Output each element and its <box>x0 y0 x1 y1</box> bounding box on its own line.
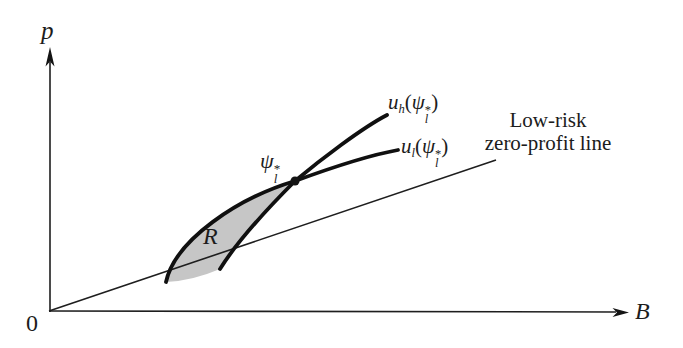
tangency-point-dot <box>291 177 300 186</box>
psi-label-scripts: *l <box>274 164 281 183</box>
uh-label-open-paren: ( <box>405 90 412 114</box>
x-axis <box>49 311 616 312</box>
ul-label-psi-scripts: *l <box>435 150 441 168</box>
zero-profit-line <box>49 160 496 311</box>
uh-curve-label: uh(ψ*l) <box>388 90 438 123</box>
shaded-region-R <box>166 181 295 282</box>
zero-profit-line-label: Low-risk zero-profit line <box>462 109 634 155</box>
origin-label: 0 <box>26 310 38 337</box>
uh-label-psi: ψ <box>412 90 425 114</box>
uh-label-base: u <box>388 90 399 114</box>
diagram-svg <box>0 0 683 348</box>
uh-indifference-curve <box>220 115 387 269</box>
shaded-region-label: R <box>203 223 218 250</box>
tangency-point-label: ψ*l <box>260 148 280 182</box>
uh-label-psi-sub: l <box>425 115 429 124</box>
ul-label-psi-sub: l <box>435 159 439 168</box>
psi-label-sub: l <box>274 174 278 184</box>
psi-label-base: ψ <box>260 148 274 173</box>
figure-canvas: p B 0 uh(ψ*l) ul(ψ*l) ψ*l R Low-risk zer… <box>0 0 683 348</box>
uh-label-psi-scripts: *l <box>425 106 431 124</box>
y-axis-label: p <box>41 17 54 45</box>
zero-profit-line-label-line1: Low-risk <box>462 109 634 132</box>
ul-label-open-paren: ( <box>415 134 422 158</box>
ul-label-close-paren: ) <box>441 134 448 158</box>
zero-profit-line-label-line2: zero-profit line <box>462 132 634 155</box>
x-axis-label: B <box>635 298 650 325</box>
ul-label-base: u <box>401 134 412 158</box>
ul-curve-label: ul(ψ*l) <box>401 134 448 167</box>
uh-label-close-paren: ) <box>431 90 438 114</box>
ul-label-psi: ψ <box>422 134 435 158</box>
